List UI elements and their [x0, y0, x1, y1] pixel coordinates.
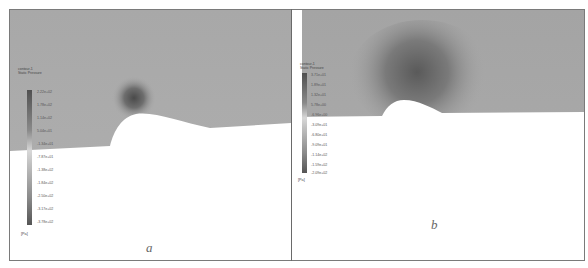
caption-a: a — [146, 240, 153, 256]
caption-b: b — [431, 217, 438, 233]
colorbar-a — [27, 90, 32, 225]
panel-b: contour-1 Static Pressure 3.71e+01 1.89e… — [292, 10, 584, 260]
legend-tick: 5.78e+00 — [311, 103, 326, 107]
legend-tick: -1.14e+02 — [311, 153, 327, 157]
legend-tick: -6.80e+01 — [311, 133, 327, 137]
legend-tick: -1.84e+02 — [37, 181, 53, 185]
legend-tick: 1.78e+02 — [37, 103, 52, 107]
legend-unit: [Pa] — [21, 232, 28, 236]
legend-tick: -1.59e+02 — [311, 163, 327, 167]
legend-tick: -1.38e+02 — [37, 168, 53, 172]
legend-tick: -3.09e+01 — [311, 123, 327, 127]
pressure-contour-b — [292, 10, 584, 260]
legend-tick: 2.22e+02 — [37, 90, 52, 94]
legend-tick: -3.17e+02 — [37, 207, 53, 211]
legend-tick: 1.89e+01 — [311, 83, 326, 87]
legend-tick: 1.32e+01 — [311, 93, 326, 97]
legend-tick: -9.09e+01 — [311, 143, 327, 147]
legend-unit: [Pa] — [298, 178, 305, 182]
legend-tick: -2.50e+02 — [37, 194, 53, 198]
legend-tick: 3.71e+01 — [311, 73, 326, 77]
colorbar-b — [302, 73, 307, 173]
legend-subtitle: Static Pressure — [300, 66, 324, 70]
legend-tick: -1.34e+01 — [37, 142, 53, 146]
legend-tick: 5.04e+01 — [37, 129, 52, 133]
legend-tick: 1.14e+02 — [37, 116, 52, 120]
legend-tick: -6.96e+00 — [311, 113, 327, 117]
legend-tick: -2.09e+02 — [311, 171, 327, 175]
panel-a: contour-1 Static Pressure 2.22e+02 1.78e… — [10, 10, 291, 260]
legend-b: contour-1 Static Pressure — [300, 62, 324, 70]
legend-tick: -3.78e+02 — [37, 220, 53, 224]
legend-subtitle: Static Pressure — [18, 71, 42, 75]
legend-tick: -7.87e+01 — [37, 155, 53, 159]
legend-a: contour-1 Static Pressure — [18, 67, 42, 75]
